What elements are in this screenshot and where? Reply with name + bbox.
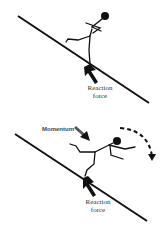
panel-standing-on-slope: Reaction force (0, 0, 165, 116)
stick-figure (66, 12, 109, 64)
rotation-arrow (120, 128, 156, 161)
standing-figure-diagram (0, 0, 165, 116)
slope-line (15, 134, 147, 221)
reaction-label-line1: Reaction (82, 198, 114, 206)
reaction-force-label: Reaction force (84, 84, 116, 100)
momentum-arrow (75, 127, 90, 141)
momentum-label: Momentum (40, 125, 76, 133)
falling-figure-diagram (0, 116, 165, 232)
reaction-label-line2: force (82, 206, 114, 214)
panel-falling-on-slope: Momentum Reaction force (0, 116, 165, 232)
stick-figure (70, 137, 135, 176)
reaction-label-line2: force (84, 92, 116, 100)
reaction-label-line1: Reaction (84, 84, 116, 92)
reaction-force-label: Reaction force (82, 198, 114, 214)
